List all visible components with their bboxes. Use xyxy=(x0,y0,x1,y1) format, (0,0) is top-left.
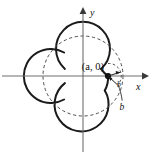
x-axis-arrowhead xyxy=(142,73,149,80)
main-curve-group xyxy=(24,22,110,131)
epitrochoid-figure: y x (a, 0) b b xyxy=(0,0,152,155)
radius-b-label: b xyxy=(120,102,125,112)
y-axis-arrowhead xyxy=(80,7,87,14)
x-axis-label: x xyxy=(135,81,141,92)
point-a-label: (a, 0) xyxy=(82,61,105,73)
radius-b-small-label: b xyxy=(117,80,121,89)
y-axis-label: y xyxy=(89,7,95,18)
curve-lobe-bottom xyxy=(55,83,109,131)
figure-container: y x (a, 0) b b xyxy=(0,0,152,155)
